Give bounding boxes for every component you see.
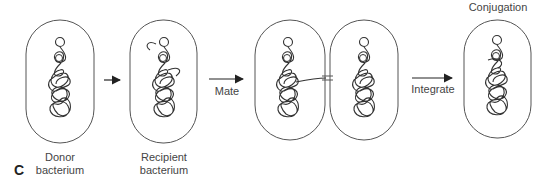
title: Conjugation [462,1,534,14]
donor-label-line1: Donor [30,151,90,164]
mating-pair [255,20,398,140]
panel-letter: C [14,162,24,178]
recipient-label-line1: Recipient [133,151,195,164]
integrate-label: Integrate [405,83,461,96]
recipient-cell [130,20,197,143]
donor-cell [26,20,94,143]
mate-label: Mate [205,85,249,98]
donor-label: Donor bacterium [30,151,90,177]
donor-label-line2: bacterium [30,164,90,177]
recipient-label-line2: bacterium [133,164,195,177]
conjugant-cell [464,20,531,138]
recipient-label: Recipient bacterium [133,151,195,177]
